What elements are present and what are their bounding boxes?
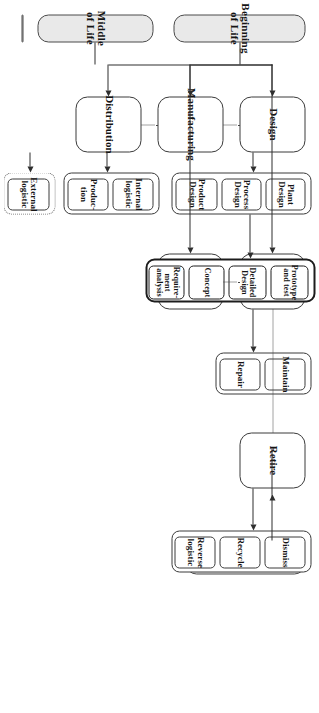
arrow-mol-to-support <box>270 247 276 253</box>
leaf-line-2: Design <box>239 270 247 294</box>
activity-production[interactable]: Produc- tion <box>67 178 108 210</box>
activity-prototype-and-test[interactable]: Prototype and test <box>270 265 308 299</box>
activity-recycle[interactable]: Recycle <box>219 536 260 568</box>
leaf-line-1: Produc- <box>88 178 97 210</box>
dashed-link-design-manufacturing <box>223 124 239 125</box>
arrow-mol-to-use <box>188 247 194 253</box>
group-retire-activities: Dismiss Recycle Reverse logistic <box>171 530 311 572</box>
activity-internal-logistic[interactable]: Internal logistic <box>112 178 153 210</box>
leaf-line-2: Design <box>276 181 285 208</box>
connector-design-to-activities <box>252 152 253 166</box>
leaf-line-2: logistic <box>19 180 28 208</box>
stage-label: Distribution <box>102 95 113 154</box>
leaf-line-2: Design <box>232 181 241 208</box>
leaf-line-1: Repair <box>235 360 244 387</box>
stage-distribution[interactable]: Distribution <box>75 96 141 152</box>
arrow-support-to-activities <box>251 346 257 352</box>
arrow-retire-to-activities <box>251 524 257 530</box>
activity-product-design[interactable]: Product Design <box>175 178 217 210</box>
connector-mol-to-support <box>271 64 272 247</box>
leaf-line-1: Internal <box>133 178 142 210</box>
arrow-process-design-to-detail <box>248 252 254 258</box>
activity-requirement-analysis[interactable]: Require- ment analysis <box>148 265 184 299</box>
phase-middle-of-life: Middle of Life <box>37 14 153 42</box>
group-distribution-activities: External logistic <box>3 172 55 214</box>
connector-retire-to-activities <box>252 488 253 524</box>
leaf-line-1: Dismiss <box>280 537 289 567</box>
activity-reverse-logistic[interactable]: Reverse logistic <box>174 536 215 568</box>
dashed-link-use-support <box>223 281 239 282</box>
leaf-line-3: analysis <box>153 268 161 297</box>
activity-external-logistic[interactable]: External logistic <box>7 178 49 210</box>
phase-beginning-of-life: Beginning of Life <box>173 14 305 42</box>
group-support-activities: Maintain Repair <box>215 352 311 394</box>
activity-dismiss[interactable]: Dismiss <box>264 536 305 568</box>
leaf-line-2: logistic <box>123 180 132 208</box>
activity-process-design[interactable]: Process Design <box>221 178 261 210</box>
leaf-line-2: tion <box>78 186 87 201</box>
connector-support-to-activities <box>252 309 253 346</box>
connector-mol-trunk <box>94 42 95 64</box>
lifecycle-diagram: Beginning of Life Middle of Life End of … <box>0 0 319 713</box>
activity-concept[interactable]: Concept <box>188 265 224 299</box>
activity-maintain[interactable]: Maintain <box>264 358 305 390</box>
connector-bol-trunk <box>239 42 240 64</box>
activity-repair[interactable]: Repair <box>219 358 260 390</box>
leaf-line-1: Maintain <box>280 356 289 392</box>
leaf-line-1: Concept <box>202 267 210 297</box>
arrow-mol-to-distribution <box>106 90 112 96</box>
arrow-distribution-to-activities <box>28 166 34 172</box>
group-manufacturing-activities: Internal logistic Produc- tion <box>63 172 159 214</box>
connector-eol-to-retire <box>271 448 272 494</box>
phase-end-of-life <box>21 14 23 42</box>
leaf-line-2: and test <box>281 268 289 296</box>
connector-mol-to-use <box>189 64 190 247</box>
connector-eol-trunk <box>271 494 272 540</box>
dashed-link-manufacturing-distribution <box>141 124 157 125</box>
phase-label: Middle of Life <box>84 10 106 45</box>
arrow-design-to-activities <box>251 166 257 172</box>
leaf-line-1: Reverse <box>195 536 204 567</box>
group-design-activities: Plant Design Process Design Product Desi… <box>171 172 311 214</box>
leaf-line-2: logistic <box>185 538 194 566</box>
arrow-manufacturing-to-activities <box>105 166 111 172</box>
connector-mol-to-distribution <box>107 64 108 90</box>
group-design-detail-activities: Prototype and test Detailed Design Conce… <box>145 258 315 302</box>
leaf-line-1: Recycle <box>235 537 244 567</box>
dashed-link-support-to-retire <box>272 309 273 432</box>
connector-manufacturing-to-activities <box>106 152 107 166</box>
connector-distribution-to-activities <box>29 152 30 166</box>
connector-process-design-to-detail <box>249 214 250 252</box>
arrow-eol-to-retire <box>270 494 276 500</box>
